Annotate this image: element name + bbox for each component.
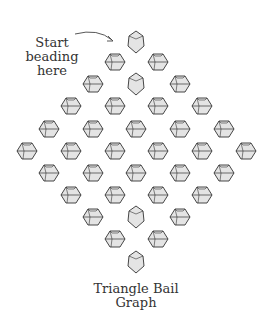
bead-horizontal-icon bbox=[191, 96, 213, 116]
bead-horizontal-icon bbox=[169, 207, 191, 227]
bead-horizontal-icon bbox=[125, 119, 147, 139]
bead-horizontal-icon bbox=[213, 119, 235, 139]
bead-vertical-icon bbox=[127, 30, 145, 54]
bead-horizontal-icon bbox=[82, 163, 104, 183]
bead-horizontal-icon bbox=[104, 229, 126, 249]
bead-horizontal-icon bbox=[82, 119, 104, 139]
caption-line-2: Graph bbox=[90, 296, 182, 310]
bead-horizontal-icon bbox=[104, 52, 126, 72]
bead-horizontal-icon bbox=[235, 141, 257, 161]
bead-horizontal-icon bbox=[60, 141, 82, 161]
bead-horizontal-icon bbox=[191, 185, 213, 205]
bead-horizontal-icon bbox=[191, 141, 213, 161]
bead-horizontal-icon bbox=[60, 185, 82, 205]
bead-horizontal-icon bbox=[60, 96, 82, 116]
bead-horizontal-icon bbox=[147, 229, 169, 249]
caption-line-1: Triangle Bail bbox=[90, 282, 182, 296]
annotation-line-2: beading bbox=[22, 50, 82, 64]
bead-horizontal-icon bbox=[169, 163, 191, 183]
bead-horizontal-icon bbox=[169, 74, 191, 94]
bead-horizontal-icon bbox=[104, 141, 126, 161]
caption: Triangle Bail Graph bbox=[90, 282, 182, 310]
bead-horizontal-icon bbox=[147, 185, 169, 205]
bead-horizontal-icon bbox=[147, 52, 169, 72]
bead-horizontal-icon bbox=[16, 141, 38, 161]
bead-horizontal-icon bbox=[38, 119, 60, 139]
bead-horizontal-icon bbox=[169, 119, 191, 139]
bead-horizontal-icon bbox=[104, 96, 126, 116]
arrow-icon bbox=[70, 28, 120, 48]
bead-horizontal-icon bbox=[147, 141, 169, 161]
bead-horizontal-icon bbox=[125, 163, 147, 183]
bead-horizontal-icon bbox=[104, 185, 126, 205]
bead-horizontal-icon bbox=[147, 96, 169, 116]
bead-vertical-icon bbox=[127, 72, 145, 96]
bead-horizontal-icon bbox=[82, 74, 104, 94]
annotation-line-3: here bbox=[22, 64, 82, 78]
bead-horizontal-icon bbox=[38, 163, 60, 183]
bead-horizontal-icon bbox=[213, 163, 235, 183]
bead-horizontal-icon bbox=[82, 207, 104, 227]
bead-vertical-icon bbox=[127, 205, 145, 229]
bead-vertical-icon bbox=[127, 250, 145, 274]
